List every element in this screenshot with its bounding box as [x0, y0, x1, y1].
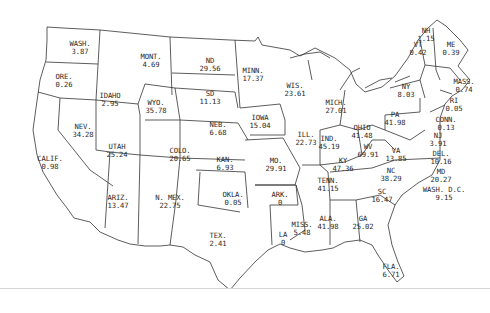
state-label: MD20.27 — [430, 168, 451, 184]
state-value: 4.69 — [140, 61, 161, 69]
state-label: NH1.15 — [418, 27, 435, 43]
state-label: ALA.41.98 — [317, 215, 338, 231]
state-label: IND.45.19 — [318, 135, 339, 151]
state-label: SD11.13 — [199, 90, 220, 106]
state-value: 41.98 — [317, 223, 338, 231]
state-value: 41.48 — [351, 132, 372, 140]
state-value: 20.27 — [430, 176, 451, 184]
state-value: 0.74 — [453, 86, 474, 94]
state-value: 10.16 — [430, 158, 451, 166]
state-label: ND29.56 — [199, 57, 220, 73]
state-label: MICH.27.01 — [325, 99, 346, 115]
state-value: 0.42 — [410, 49, 427, 57]
state-label: RI0.05 — [446, 97, 463, 113]
state-label: MO.29.91 — [265, 157, 286, 173]
state-value: 15.04 — [249, 122, 270, 130]
state-label: IDAHO2.95 — [99, 92, 120, 108]
state-value: 35.78 — [145, 107, 166, 115]
state-label: LA0 — [279, 231, 287, 247]
state-label: ARIZ.13.47 — [107, 194, 128, 210]
state-label: GA25.02 — [352, 215, 373, 231]
state-label: NJ3.91 — [430, 132, 447, 148]
state-label: MINN.17.37 — [242, 67, 263, 83]
state-label: KAN.6.93 — [217, 156, 234, 172]
page-divider-line — [0, 288, 490, 289]
state-value: 29.91 — [265, 165, 286, 173]
state-value: 17.37 — [242, 75, 263, 83]
state-value: 45.19 — [318, 143, 339, 151]
state-label: OKLA.0.05 — [222, 191, 243, 207]
state-value: 41.15 — [317, 185, 338, 193]
state-label: WASH.3.87 — [69, 40, 90, 56]
state-value: 13.85 — [385, 155, 406, 163]
state-value: 25.24 — [106, 151, 127, 159]
state-value: 0 — [279, 239, 287, 247]
state-value: 9.15 — [423, 194, 465, 202]
state-label: CALIF.0.98 — [37, 155, 62, 171]
state-value: 2.41 — [210, 240, 227, 248]
state-borders — [38, 28, 460, 245]
state-label: SC16.47 — [371, 188, 392, 204]
state-value: 29.56 — [199, 65, 220, 73]
state-value: 6.93 — [217, 164, 234, 172]
state-value: 69.91 — [357, 151, 378, 159]
state-value: 16.47 — [371, 196, 392, 204]
state-label: VT0.42 — [410, 41, 427, 57]
state-value: 47.36 — [332, 165, 353, 173]
state-label: NEV.34.28 — [72, 123, 93, 139]
state-value: 38.29 — [380, 175, 401, 183]
state-value: 22.75 — [155, 202, 185, 210]
state-label: IOWA15.04 — [249, 114, 270, 130]
state-label: MONT.4.69 — [140, 53, 161, 69]
state-label: NEB.6.68 — [210, 121, 227, 137]
state-label: MISS.5.48 — [291, 221, 312, 237]
state-value: 22.73 — [295, 139, 316, 147]
state-value: 8.03 — [398, 91, 415, 99]
state-label: COLO.20.65 — [169, 147, 190, 163]
state-value: 2.95 — [99, 100, 120, 108]
state-label: TENN.41.15 — [317, 177, 338, 193]
state-value: 25.02 — [352, 223, 373, 231]
state-value: 3.91 — [430, 140, 447, 148]
state-label: MASS.0.74 — [453, 78, 474, 94]
state-label: WIS.23.61 — [284, 82, 305, 98]
state-label: UTAH25.24 — [106, 143, 127, 159]
state-label: PA41.98 — [384, 111, 405, 127]
state-label: ORE.0.26 — [56, 73, 73, 89]
state-label: WV69.91 — [357, 143, 378, 159]
state-label: ARK.0 — [272, 191, 289, 207]
state-value: 0.26 — [56, 81, 73, 89]
state-value: 6.68 — [210, 129, 227, 137]
state-label: OHIO41.48 — [351, 124, 372, 140]
state-label: VA13.85 — [385, 147, 406, 163]
state-label: CONN.0.13 — [435, 116, 456, 132]
state-label: ME0.39 — [443, 41, 460, 57]
state-value: 0 — [272, 199, 289, 207]
us-state-value-map: WASH.3.87ORE.0.26CALIF.0.98IDAHO2.95NEV.… — [0, 0, 490, 313]
state-label: DEL.10.16 — [430, 150, 451, 166]
state-label: NC38.29 — [380, 167, 401, 183]
state-value: 0.05 — [222, 199, 243, 207]
state-value: 20.65 — [169, 155, 190, 163]
state-value: 11.13 — [199, 98, 220, 106]
state-value: 27.01 — [325, 107, 346, 115]
state-value: 34.28 — [72, 131, 93, 139]
state-label: KY47.36 — [332, 157, 353, 173]
state-label: FLA.6.71 — [383, 263, 400, 279]
state-label: NY8.03 — [398, 83, 415, 99]
state-label: N. MEX.22.75 — [155, 194, 185, 210]
state-value: 0.05 — [446, 105, 463, 113]
state-value: 41.98 — [384, 119, 405, 127]
state-label: WYO.35.78 — [145, 99, 166, 115]
state-label: WASH. D.C.9.15 — [423, 186, 465, 202]
state-label: ILL.22.73 — [295, 131, 316, 147]
state-value: 0.98 — [37, 163, 62, 171]
state-value: 3.87 — [69, 48, 90, 56]
state-value: 6.71 — [383, 271, 400, 279]
state-label: TEX.2.41 — [210, 232, 227, 248]
state-value: 0.39 — [443, 49, 460, 57]
state-value: 13.47 — [107, 202, 128, 210]
state-value: 1.15 — [418, 35, 435, 43]
state-value: 23.61 — [284, 90, 305, 98]
state-value: 5.48 — [291, 229, 312, 237]
